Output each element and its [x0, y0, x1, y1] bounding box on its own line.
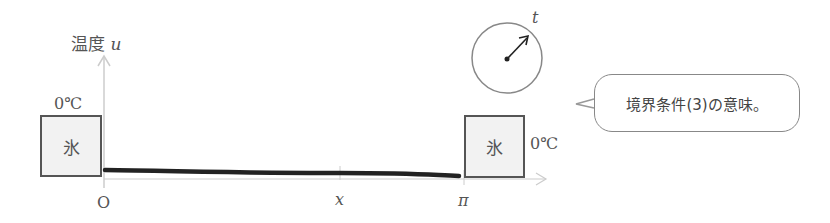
- right-ice-temp: 0℃: [530, 134, 558, 153]
- rod: [105, 170, 459, 176]
- y-axis-label: 温度 u: [71, 30, 121, 55]
- callout-bubble: 境界条件(3)の意味。: [594, 74, 800, 132]
- origin-label: O: [97, 193, 110, 212]
- callout-pointer: [576, 99, 594, 108]
- clock-icon: [472, 23, 542, 93]
- left-ice-label: 氷: [63, 134, 80, 159]
- right-ice-label: 氷: [486, 134, 503, 159]
- y-axis-label-text: 温度: [71, 34, 105, 54]
- right-ice-block: 氷: [464, 115, 525, 178]
- clock-variable-label: t: [532, 8, 538, 27]
- x-end-label: π: [458, 191, 469, 210]
- left-ice-block: 氷: [40, 115, 102, 177]
- left-ice-temp: 0℃: [54, 94, 82, 113]
- callout-text: 境界条件(3)の意味。: [626, 93, 767, 114]
- x-variable-label: x: [335, 190, 344, 209]
- y-axis-variable: u: [110, 34, 121, 54]
